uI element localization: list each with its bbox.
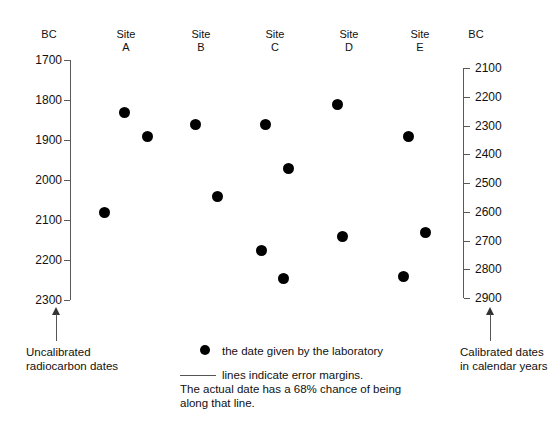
right-axis-tick-label: 2200 [475, 91, 502, 103]
right-axis-tick [464, 212, 470, 213]
left-axis-tick-label: 2100 [28, 214, 62, 226]
legend-note-line2: along that line. [180, 396, 255, 410]
legend-line-marker [180, 375, 216, 376]
data-point [256, 245, 267, 256]
site-header-d-line1: Site [328, 28, 370, 41]
left-axis-tick [64, 60, 70, 61]
left-axis-tick [64, 300, 70, 301]
right-axis-tick [464, 183, 470, 184]
data-point [119, 107, 130, 118]
legend-note-line1: The actual date has a 68% chance of bein… [180, 382, 401, 396]
left-axis-tick [64, 220, 70, 221]
left-axis-tick-label: 2000 [28, 174, 62, 186]
right-axis-tick-label: 2400 [475, 148, 502, 160]
right-axis-tick-label: 2800 [475, 263, 502, 275]
right-axis-tick [464, 241, 470, 242]
right-axis-tick-label: 2300 [475, 120, 502, 132]
site-header-a-line1: Site [105, 28, 147, 41]
left-axis-tick-label: 2300 [28, 294, 62, 306]
left-axis-caption-line2: radiocarbon dates [26, 359, 118, 373]
right-axis-tick [464, 68, 470, 69]
right-axis-tick [464, 298, 470, 299]
left-axis-tick-label: 1700 [28, 54, 62, 66]
data-point [260, 119, 271, 130]
data-point [337, 231, 348, 242]
left-caption-arrow [50, 307, 64, 341]
data-point [99, 207, 110, 218]
right-axis-tick [464, 97, 470, 98]
right-axis-tick [464, 154, 470, 155]
site-header-e-line1: Site [399, 28, 441, 41]
legend-line-text: lines indicate error margins. [222, 368, 363, 382]
left-axis-tick [64, 180, 70, 181]
data-point [332, 99, 343, 110]
right-axis-tick-label: 2500 [475, 177, 502, 189]
left-axis-spine [70, 60, 71, 300]
left-axis-tick [64, 260, 70, 261]
data-point [420, 227, 431, 238]
left-axis-tick [64, 100, 70, 101]
right-caption-arrow [484, 307, 498, 341]
legend-dot-text: the date given by the laboratory [222, 344, 383, 358]
site-header-a-line2: A [105, 41, 147, 54]
legend-dot-marker [200, 345, 210, 355]
radiocarbon-date-chart: BC Site A Site B Site C Site D Site E BC… [0, 0, 560, 426]
arrow-stem [490, 314, 491, 341]
site-header-e-line2: E [399, 41, 441, 54]
data-point [190, 119, 201, 130]
right-axis-tick-label: 2900 [475, 292, 502, 304]
right-axis-caption-line2: in calendar years [460, 359, 548, 373]
left-axis-tick-label: 1800 [28, 94, 62, 106]
right-axis-tick [464, 269, 470, 270]
site-header-b-line2: B [180, 41, 222, 54]
right-axis-caption-line1: Calibrated dates [460, 345, 544, 359]
data-point [403, 131, 414, 142]
right-axis-title: BC [463, 28, 489, 41]
left-axis-tick [64, 140, 70, 141]
right-axis-tick-label: 2600 [475, 206, 502, 218]
data-point [398, 271, 409, 282]
left-axis-tick-label: 1900 [28, 134, 62, 146]
arrow-stem [56, 314, 57, 341]
left-axis-title: BC [36, 28, 62, 41]
left-axis-tick-label: 2200 [28, 254, 62, 266]
site-header-b-line1: Site [180, 28, 222, 41]
right-axis-tick-label: 2100 [475, 62, 502, 74]
left-axis-caption-line1: Uncalibrated [26, 345, 91, 359]
data-point [283, 163, 294, 174]
site-header-c-line2: C [254, 41, 296, 54]
data-point [142, 131, 153, 142]
site-header-d-line2: D [328, 41, 370, 54]
data-point [212, 191, 223, 202]
right-axis-tick [464, 126, 470, 127]
data-point [278, 273, 289, 284]
site-header-c-line1: Site [254, 28, 296, 41]
right-axis-tick-label: 2700 [475, 235, 502, 247]
